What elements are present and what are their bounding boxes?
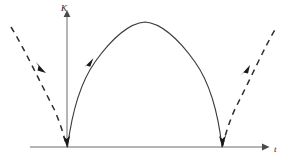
incoming-trend-curve — [11, 27, 67, 146]
time-axis-label: t — [274, 144, 277, 154]
arrow-dashed-right-ascending-icon — [240, 65, 250, 76]
time-axis-arrowhead — [262, 144, 270, 151]
outgoing-trend-curve — [223, 28, 277, 146]
arrow-dashed-left-descending-icon — [36, 62, 46, 73]
kinetic-energy-curve — [68, 22, 223, 147]
time-axis — [30, 144, 270, 151]
figure-container: K t — [0, 0, 287, 162]
plot-canvas: K t — [0, 0, 287, 162]
kinetic-energy-axis-label: K — [60, 3, 68, 13]
arrow-solid-falling-at-axis-icon — [219, 136, 226, 148]
kinetic-energy-axis — [64, 10, 71, 147]
